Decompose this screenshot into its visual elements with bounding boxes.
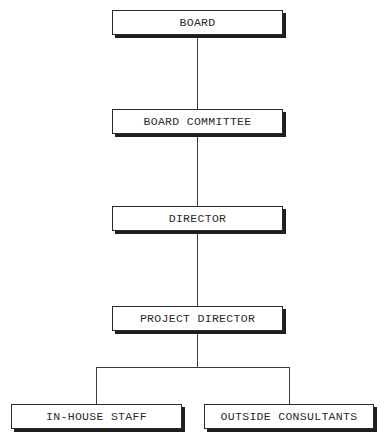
- connector-committee-to-director: [197, 134, 198, 206]
- node-outside-consultants: OUTSIDE CONSULTANTS: [204, 404, 374, 429]
- connector-branch-horizontal: [96, 367, 290, 368]
- node-in-house-staff: IN-HOUSE STAFF: [11, 404, 182, 429]
- connector-to-in-house-staff: [96, 367, 97, 404]
- node-board-committee-label: BOARD COMMITTEE: [143, 115, 251, 128]
- connector-to-outside-consultants: [289, 367, 290, 404]
- connector-project-director-trunk: [197, 331, 198, 367]
- node-project-director: PROJECT DIRECTOR: [112, 306, 283, 331]
- connector-director-to-project-director: [197, 231, 198, 306]
- node-director: DIRECTOR: [112, 206, 283, 231]
- node-director-label: DIRECTOR: [169, 212, 227, 225]
- node-board-label: BOARD: [179, 16, 215, 29]
- node-outside-consultants-label: OUTSIDE CONSULTANTS: [221, 410, 358, 423]
- node-in-house-staff-label: IN-HOUSE STAFF: [46, 410, 147, 423]
- node-board-committee: BOARD COMMITTEE: [112, 109, 283, 134]
- node-board: BOARD: [112, 10, 283, 35]
- node-project-director-label: PROJECT DIRECTOR: [140, 312, 255, 325]
- connector-board-to-committee: [197, 35, 198, 109]
